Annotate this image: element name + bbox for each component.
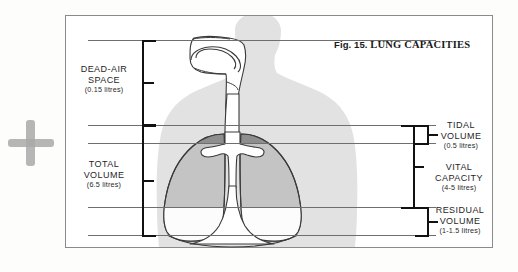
figure-number: Fig. 15. bbox=[334, 39, 368, 50]
bracket-total-volume bbox=[142, 125, 164, 237]
plus-annotation-mark bbox=[8, 120, 54, 166]
figure-title-text: LUNG CAPACITIES bbox=[370, 39, 470, 50]
figure-screenshot: Fig. 15. LUNG CAPACITIES DEAD-AIR SPACE … bbox=[0, 0, 518, 272]
rule-dead-air-bottom bbox=[88, 125, 436, 126]
label-dead-air-space-line1: DEAD-AIR bbox=[68, 64, 140, 75]
figure-title: Fig. 15. LUNG CAPACITIES bbox=[334, 39, 470, 50]
label-vital-capacity: VITAL CAPACITY (4-5 litres) bbox=[424, 162, 494, 193]
label-vital-capacity-value: (4-5 litres) bbox=[424, 184, 494, 193]
label-tidal-volume: TIDAL VOLUME (0.5 litres) bbox=[428, 120, 494, 151]
label-dead-air-space: DEAD-AIR SPACE (0.15 litres) bbox=[68, 64, 140, 95]
label-vital-capacity-line1: VITAL bbox=[424, 162, 494, 173]
figure-frame: Fig. 15. LUNG CAPACITIES DEAD-AIR SPACE … bbox=[65, 15, 493, 248]
rule-bottom-residual bbox=[88, 235, 436, 236]
label-dead-air-space-value: (0.15 litres) bbox=[68, 86, 140, 95]
bracket-dead-air-space bbox=[142, 40, 164, 126]
label-tidal-volume-value: (0.5 litres) bbox=[428, 142, 494, 151]
label-total-volume: TOTAL VOLUME (6.5 litres) bbox=[68, 159, 140, 190]
label-residual-volume-line1: RESIDUAL bbox=[426, 205, 494, 216]
label-residual-volume: RESIDUAL VOLUME (1-1.5 litres) bbox=[426, 205, 494, 236]
label-tidal-volume-line1: TIDAL bbox=[428, 120, 494, 131]
plus-horizontal-stroke bbox=[8, 139, 54, 147]
label-total-volume-line1: TOTAL bbox=[68, 159, 140, 170]
label-total-volume-value: (6.5 litres) bbox=[68, 181, 140, 190]
bracket-vital-capacity bbox=[401, 125, 423, 209]
rule-vital-bottom bbox=[88, 207, 436, 208]
rule-tidal-bottom bbox=[88, 143, 436, 144]
label-residual-volume-value: (1-1.5 litres) bbox=[426, 227, 494, 236]
